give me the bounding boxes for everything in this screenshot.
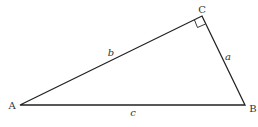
- side-label-c: c: [130, 107, 136, 118]
- side-label-a: a: [225, 51, 231, 62]
- vertex-label-a: A: [7, 100, 16, 111]
- vertex-label-b: B: [249, 103, 256, 114]
- triangle: [20, 16, 245, 105]
- vertex-label-c: C: [198, 4, 206, 15]
- right-triangle-diagram: C A B b a c: [0, 0, 258, 127]
- side-label-b: b: [108, 47, 114, 58]
